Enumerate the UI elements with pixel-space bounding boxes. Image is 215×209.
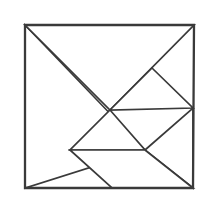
tangram-diagram (0, 0, 215, 209)
tangram-figure (0, 0, 215, 209)
